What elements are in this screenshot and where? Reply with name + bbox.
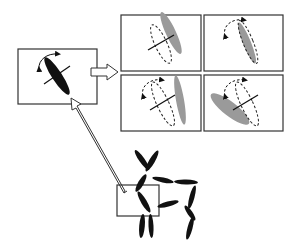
figure-segment [152,175,175,184]
up-left-arrow-icon [71,98,125,193]
variant-panel-1 [121,10,201,71]
figure-segment [136,190,153,214]
arrow-figure-to-source [71,98,127,193]
figure-segment [184,216,195,240]
figure-segment [174,179,198,185]
variant-panel-3 [121,75,201,131]
source-panel [18,49,97,104]
stick-figure [133,149,198,241]
variant-panel-2 [204,15,283,71]
figure-segment [144,149,161,173]
figure-segment [148,214,154,238]
figure-segment [134,173,149,193]
variant-panel-4 [204,75,283,131]
figure-segment [138,214,146,238]
diagram-canvas [0,0,299,250]
figure-segment [157,199,180,210]
variant-panels [121,10,283,131]
figure-segment [186,185,197,209]
